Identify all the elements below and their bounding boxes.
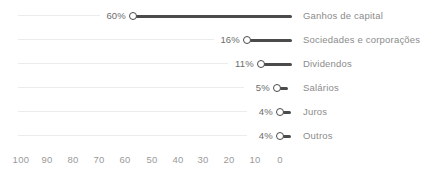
row-category-label: Juros — [303, 104, 327, 120]
chart-row[interactable]: 4% Outros — [0, 128, 435, 144]
row-marker-circle[interactable] — [273, 84, 281, 92]
x-axis-tick: 60 — [119, 152, 130, 168]
row-gridline — [18, 135, 247, 136]
x-axis-tick: 0 — [277, 152, 283, 168]
row-marker-circle[interactable] — [257, 60, 265, 68]
row-marker-circle[interactable] — [276, 132, 284, 140]
chart-row[interactable]: 4% Juros — [0, 104, 435, 120]
x-axis-tick: 90 — [41, 152, 52, 168]
row-value-label: 11% — [212, 56, 254, 72]
x-axis-tick: 30 — [197, 152, 208, 168]
row-value-label: 4% — [231, 104, 273, 120]
chart-row[interactable]: 11% Dividendos — [0, 56, 435, 72]
row-connector-line — [247, 39, 292, 42]
plot-area: 60% Ganhos de capital 16% Sociedades e c… — [0, 0, 435, 150]
row-marker-circle[interactable] — [243, 36, 251, 44]
row-category-label: Outros — [303, 128, 333, 144]
chart-row[interactable]: 5% Salários — [0, 80, 435, 96]
x-axis-tick: 50 — [146, 152, 157, 168]
chart-row[interactable]: 16% Sociedades e corporações — [0, 32, 435, 48]
x-axis-tick: 20 — [223, 152, 234, 168]
row-category-label: Sociedades e corporações — [303, 32, 420, 48]
row-value-label: 5% — [228, 80, 270, 96]
row-connector-line — [133, 15, 292, 18]
row-category-label: Ganhos de capital — [303, 8, 383, 24]
x-axis-tick: 70 — [93, 152, 104, 168]
x-axis: 100 90 80 70 60 50 40 30 20 10 0 — [0, 152, 435, 168]
row-value-label: 60% — [84, 8, 126, 24]
lollipop-chart: 60% Ganhos de capital 16% Sociedades e c… — [0, 0, 435, 178]
x-axis-tick: 40 — [172, 152, 183, 168]
x-axis-tick: 100 — [13, 152, 30, 168]
row-gridline — [18, 39, 214, 40]
x-axis-tick: 10 — [249, 152, 260, 168]
row-value-label: 4% — [231, 128, 273, 144]
x-axis-tick: 80 — [67, 152, 78, 168]
row-connector-line — [261, 63, 292, 66]
row-marker-circle[interactable] — [129, 12, 137, 20]
row-gridline — [18, 63, 228, 64]
row-marker-circle[interactable] — [276, 108, 284, 116]
row-category-label: Salários — [303, 80, 339, 96]
row-category-label: Dividendos — [303, 56, 352, 72]
row-gridline — [18, 87, 244, 88]
row-gridline — [18, 111, 247, 112]
row-value-label: 16% — [198, 32, 240, 48]
chart-row[interactable]: 60% Ganhos de capital — [0, 8, 435, 24]
